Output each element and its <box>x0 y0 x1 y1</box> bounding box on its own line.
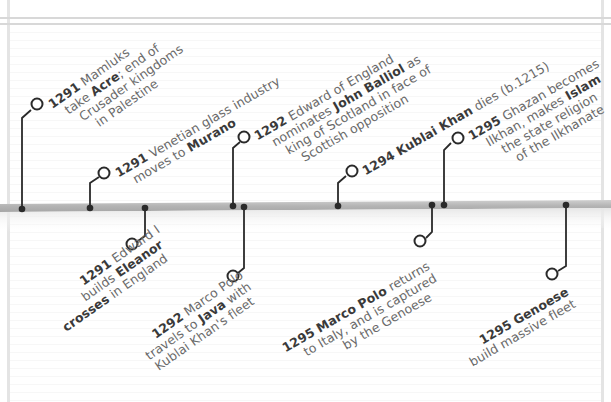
event-circle-icon <box>239 132 250 143</box>
event-circle-icon <box>453 133 464 144</box>
event-circle-icon <box>547 269 558 280</box>
event-circle-icon <box>347 166 358 177</box>
event-circle-icon <box>99 168 110 179</box>
event-circle-icon <box>32 99 43 110</box>
event-circle-icon <box>415 236 426 247</box>
